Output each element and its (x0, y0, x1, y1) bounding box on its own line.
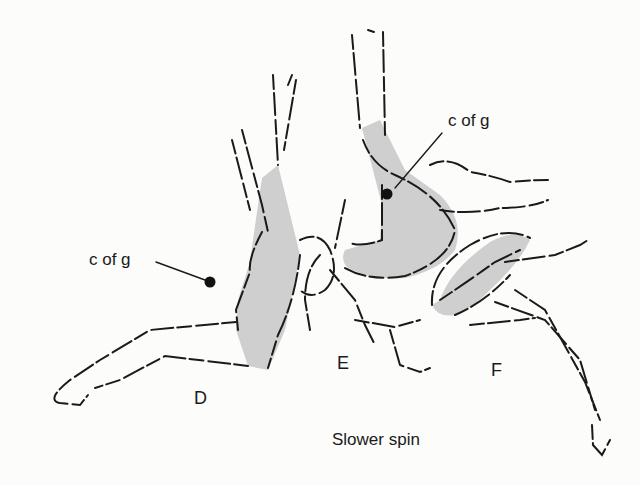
cofg-dot-d (205, 277, 216, 288)
leader-line-d (156, 262, 205, 280)
position-label-e: E (337, 354, 349, 372)
diver-illustration (0, 0, 640, 485)
figure-f (432, 233, 610, 455)
figure-e (300, 30, 548, 372)
cofg-dot-e (382, 189, 393, 200)
position-label-f: F (491, 361, 502, 379)
cofg-label-e: c of g (448, 112, 490, 129)
figure-canvas: c of g c of g D E F Slower spin (0, 0, 640, 485)
cofg-label-d: c of g (89, 251, 131, 268)
figure-caption: Slower spin (332, 431, 420, 448)
position-label-d: D (194, 389, 207, 407)
figure-d (54, 75, 300, 405)
